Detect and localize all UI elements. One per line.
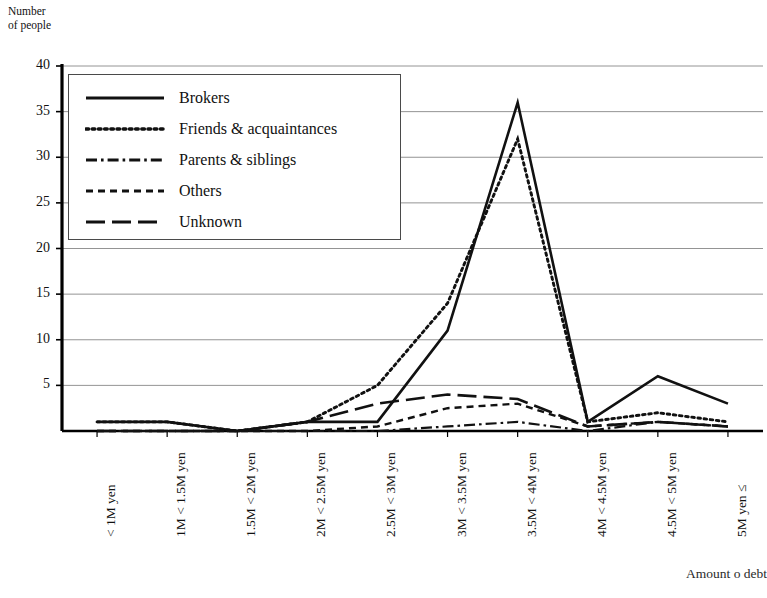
- y-axis-tick-label: 15: [16, 286, 50, 300]
- x-axis-tick-label: 3.5M < 4M yen: [525, 452, 539, 537]
- x-axis-tick-label: 4.5M < 5M yen: [665, 452, 679, 537]
- legend-item-label: Friends & acquaintances: [179, 120, 337, 138]
- y-axis-tick-label: 10: [16, 332, 50, 346]
- x-axis-title: Amount o debt: [686, 566, 767, 582]
- legend-item: Brokers: [69, 81, 400, 114]
- y-axis-tick-label: 35: [16, 104, 50, 118]
- y-axis-tick-label: 30: [16, 149, 50, 163]
- x-axis-tick-label: 3M < 3.5M yen: [455, 452, 469, 537]
- x-axis-tick-label: 5M yen ≤: [735, 485, 749, 537]
- x-axis-tick-label: < 1M yen: [104, 484, 118, 537]
- legend-item-label: Brokers: [179, 89, 230, 107]
- legend-line-swatch-dotted: [85, 122, 165, 136]
- y-axis-tick-label: 40: [16, 58, 50, 72]
- legend-item-label: Parents & siblings: [179, 151, 296, 169]
- legend-item: Friends & acquaintances: [69, 112, 400, 145]
- legend-line-swatch-dashdot: [85, 153, 165, 167]
- legend-item: Parents & siblings: [69, 143, 400, 176]
- y-axis-tick-label: 25: [16, 195, 50, 209]
- legend-item-label: Others: [179, 182, 222, 200]
- x-axis-tick-label: 2.5M < 3M yen: [384, 452, 398, 537]
- legend-line-swatch-shortdash: [85, 184, 165, 198]
- y-axis-tick-label: 5: [16, 377, 50, 391]
- legend-line-swatch-solid: [85, 91, 165, 105]
- x-axis-tick-label: 4M < 4.5M yen: [595, 452, 609, 537]
- x-axis-tick-label: 1M < 1.5M yen: [174, 452, 188, 537]
- legend-item: Unknown: [69, 205, 400, 238]
- y-axis-tick-label: 20: [16, 241, 50, 255]
- x-axis-tick-label: 1.5M < 2M yen: [244, 452, 258, 537]
- legend-item-label: Unknown: [179, 213, 242, 231]
- x-axis-tick-label: 2M < 2.5M yen: [314, 452, 328, 537]
- chart-legend: BrokersFriends & acquaintancesParents & …: [68, 74, 401, 240]
- legend-item: Others: [69, 174, 400, 207]
- legend-line-swatch-longdash: [85, 215, 165, 229]
